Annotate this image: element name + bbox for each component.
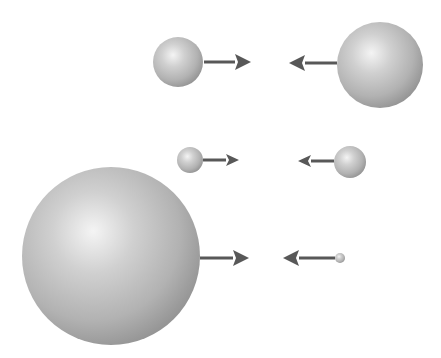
spheres-and-arrows (22, 22, 423, 345)
arrow-left-icon (298, 155, 334, 167)
pair-middle (177, 146, 366, 178)
sphere-right (335, 253, 345, 263)
sphere-left (153, 37, 203, 87)
attraction-diagram (0, 0, 441, 358)
pair-top (153, 22, 423, 108)
sphere-left (22, 167, 200, 345)
sphere-left (177, 147, 203, 173)
arrow-left-icon (283, 250, 335, 266)
arrow-right-icon (200, 250, 249, 266)
sphere-right (334, 146, 366, 178)
sphere-right (337, 22, 423, 108)
arrow-right-icon (204, 54, 251, 70)
arrow-left-icon (289, 55, 337, 71)
pair-bottom (22, 167, 345, 345)
arrow-right-icon (203, 154, 239, 166)
